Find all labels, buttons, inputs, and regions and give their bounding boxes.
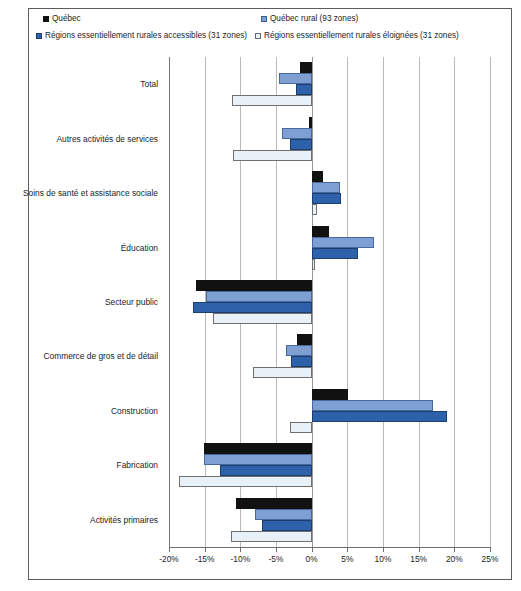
- bar: [220, 465, 312, 476]
- bar: [255, 509, 312, 520]
- square-white-icon: [255, 33, 261, 39]
- legend-label-quebec: Québec: [52, 14, 81, 24]
- category-label: Construction: [0, 406, 158, 416]
- bar: [213, 313, 312, 324]
- x-tick-label: 25%: [482, 554, 499, 564]
- x-tick-15%: [419, 547, 420, 552]
- x-tick--5%: [276, 547, 277, 552]
- x-tick-label: 15%: [410, 554, 427, 564]
- gridline-10%: [383, 57, 384, 547]
- bar: [312, 400, 433, 411]
- bar: [312, 248, 358, 259]
- bar: [312, 182, 341, 193]
- bar: [296, 84, 312, 95]
- legend-label-rurales-eloignees: Régions essentiellement rurales éloignée…: [264, 31, 459, 41]
- bar: [196, 280, 312, 291]
- bar: [297, 334, 311, 345]
- chart-figure: Québec Québec rural (93 zones) Régions e…: [0, 0, 521, 591]
- square-black-icon: [43, 16, 49, 22]
- bar: [282, 128, 312, 139]
- bar: [312, 237, 375, 248]
- legend-row-2: Régions essentiellement rurales accessib…: [36, 31, 506, 47]
- bar: [236, 498, 312, 509]
- x-tick-label: -5%: [269, 554, 284, 564]
- legend-item-rurales-eloignees[interactable]: Régions essentiellement rurales éloignée…: [255, 31, 459, 41]
- plot-area: [169, 57, 490, 547]
- bar: [232, 95, 312, 106]
- bar: [262, 520, 312, 531]
- bar: [193, 302, 311, 313]
- bar: [206, 291, 312, 302]
- legend-row-1: Québec Québec rural (93 zones): [36, 14, 506, 30]
- gridline-15%: [419, 57, 420, 547]
- x-tick-label: 0%: [306, 554, 318, 564]
- gridline-5%: [347, 57, 348, 547]
- x-tick-10%: [383, 547, 384, 552]
- bar: [312, 204, 317, 215]
- x-tick-label: -15%: [195, 554, 215, 564]
- bar: [291, 356, 312, 367]
- legend-item-quebec[interactable]: Québec: [43, 14, 81, 24]
- bar: [312, 171, 323, 182]
- gridline-right-edge: [490, 57, 491, 547]
- x-tick-0%: [312, 547, 313, 552]
- gridline-20%: [454, 57, 455, 547]
- legend-label-rurales-accessibles: Régions essentiellement rurales accessib…: [45, 31, 247, 41]
- category-label: Soins de santé et assistance sociale: [0, 188, 158, 198]
- bar: [279, 73, 312, 84]
- category-label: Secteur public: [0, 297, 158, 307]
- bar: [290, 139, 311, 150]
- x-tick-20%: [454, 547, 455, 552]
- legend-item-quebec-rural[interactable]: Québec rural (93 zones): [261, 14, 358, 24]
- bar: [309, 117, 312, 128]
- x-tick-25%: [490, 547, 491, 552]
- bar: [312, 226, 329, 237]
- square-lightblue-icon: [261, 16, 267, 22]
- bar: [312, 389, 348, 400]
- category-label: Fabrication: [0, 460, 158, 470]
- gridline--20%: [169, 57, 170, 547]
- x-tick--20%: [169, 547, 170, 552]
- bar: [204, 454, 312, 465]
- x-tick-5%: [347, 547, 348, 552]
- bar: [300, 62, 311, 73]
- x-axis-line: [169, 547, 490, 548]
- category-label: Total: [0, 79, 158, 89]
- gridline-0%: [312, 57, 313, 547]
- category-label: Commerce de gros et de détail: [0, 351, 158, 361]
- legend-item-rurales-accessibles[interactable]: Régions essentiellement rurales accessib…: [36, 31, 247, 41]
- x-tick-label: -20%: [159, 554, 179, 564]
- x-tick--15%: [205, 547, 206, 552]
- x-tick-label: 5%: [341, 554, 353, 564]
- bar: [204, 443, 312, 454]
- y-axis-category-labels: TotalAutres activités de servicesSoins d…: [0, 57, 158, 547]
- x-tick-label: 20%: [446, 554, 463, 564]
- bar: [290, 422, 311, 433]
- category-label: Éducation: [0, 243, 158, 253]
- bar: [233, 150, 311, 161]
- category-label: Autres activités de services: [0, 134, 158, 144]
- category-label: Activités primaires: [0, 515, 158, 525]
- bar: [312, 193, 341, 204]
- square-blue-icon: [36, 33, 42, 39]
- bar: [179, 476, 312, 487]
- legend-label-quebec-rural: Québec rural (93 zones): [270, 14, 358, 24]
- bar: [231, 531, 312, 542]
- chart-legend: Québec Québec rural (93 zones) Régions e…: [36, 14, 506, 52]
- bar: [312, 411, 448, 422]
- x-tick--10%: [240, 547, 241, 552]
- bar: [286, 345, 312, 356]
- x-tick-label: -10%: [231, 554, 251, 564]
- bar: [312, 259, 316, 270]
- bar: [253, 367, 311, 378]
- x-tick-label: 10%: [375, 554, 392, 564]
